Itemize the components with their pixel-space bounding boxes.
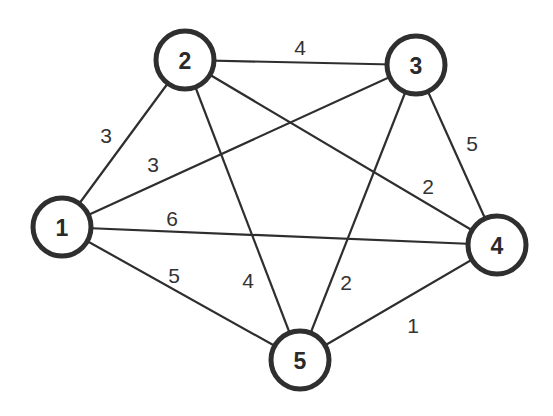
edge-weight-1-2: 3 xyxy=(100,124,112,147)
edges-layer xyxy=(62,60,497,360)
edge-2-4 xyxy=(185,60,497,245)
nodes-layer: 12345 xyxy=(33,31,526,389)
edge-weight-2-3: 4 xyxy=(294,36,306,59)
edge-2-5 xyxy=(185,60,300,360)
graph-diagram: 3365424521 12345 xyxy=(0,0,553,416)
node-2: 2 xyxy=(156,31,214,89)
node-label: 1 xyxy=(56,215,69,241)
node-5: 5 xyxy=(271,331,329,389)
edge-weight-2-5: 4 xyxy=(242,269,254,292)
node-1: 1 xyxy=(33,198,91,256)
edge-2-3 xyxy=(185,60,416,65)
edge-4-5 xyxy=(300,245,497,360)
edge-weight-1-3: 3 xyxy=(147,153,159,176)
edge-weight-2-4: 2 xyxy=(422,175,434,198)
edge-weight-1-4: 6 xyxy=(166,207,178,230)
edge-1-4 xyxy=(62,227,497,245)
node-label: 3 xyxy=(410,53,423,79)
edge-1-5 xyxy=(62,227,300,360)
edge-weight-1-5: 5 xyxy=(168,264,180,287)
node-label: 5 xyxy=(294,348,307,374)
edge-weight-3-5: 2 xyxy=(340,271,352,294)
node-label: 4 xyxy=(491,233,504,259)
node-label: 2 xyxy=(179,48,192,74)
node-3: 3 xyxy=(387,36,445,94)
edge-weight-4-5: 1 xyxy=(407,314,419,337)
node-4: 4 xyxy=(468,216,526,274)
edge-weight-3-4: 5 xyxy=(466,132,478,155)
